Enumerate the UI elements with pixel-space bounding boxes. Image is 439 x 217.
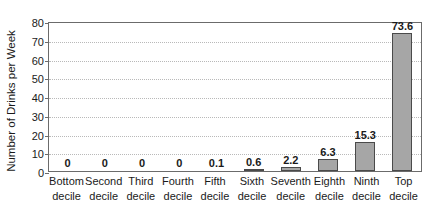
bar-value-label: 6.3 bbox=[320, 146, 335, 158]
y-tick-label: 40 bbox=[32, 93, 44, 104]
bar-slot: 6.3 bbox=[309, 23, 346, 171]
x-axis-category-label: Bottomdecile bbox=[48, 174, 85, 216]
x-label-line-2: decile bbox=[385, 189, 422, 204]
x-label-line-1: Eighth bbox=[311, 174, 348, 189]
bar-value-label: 2.2 bbox=[283, 154, 298, 166]
bar-slot: 2.2 bbox=[272, 23, 309, 171]
y-tick-label: 60 bbox=[32, 55, 44, 66]
bar[interactable]: 0.6 bbox=[244, 169, 264, 171]
x-label-line-2: decile bbox=[348, 189, 385, 204]
x-label-line-1: Ninth bbox=[348, 174, 385, 189]
y-tick-label: 80 bbox=[32, 18, 44, 29]
x-label-line-1: Sixth bbox=[234, 174, 271, 189]
y-tick-label: 50 bbox=[32, 74, 44, 85]
y-tick-label: 0 bbox=[38, 168, 44, 179]
x-axis-category-label: Sixthdecile bbox=[234, 174, 271, 216]
y-axis-title: Number of Drinks per Week bbox=[3, 6, 19, 196]
bar-slot: 0 bbox=[123, 23, 160, 171]
bar[interactable]: 6.3 bbox=[318, 159, 338, 171]
x-label-line-1: Bottom bbox=[48, 174, 85, 189]
x-label-line-2: decile bbox=[159, 189, 196, 204]
x-label-line-2: decile bbox=[122, 189, 159, 204]
plot-area: 01020304050607080 00000.10.62.26.315.373… bbox=[48, 22, 422, 172]
x-axis-category-label: Topdecile bbox=[385, 174, 422, 216]
bar-value-label: 0.1 bbox=[209, 157, 224, 169]
x-label-line-1: Top bbox=[385, 174, 422, 189]
bar-slot: 0.1 bbox=[198, 23, 235, 171]
x-label-line-2: decile bbox=[311, 189, 348, 204]
bar-slot: 0 bbox=[161, 23, 198, 171]
x-label-line-2: decile bbox=[48, 189, 85, 204]
bar-value-label: 0 bbox=[102, 157, 108, 169]
x-axis-category-label: Fourthdecile bbox=[159, 174, 196, 216]
x-axis-labels: BottomdecileSeconddecileThirddecileFourt… bbox=[48, 174, 422, 216]
bar-slot: 73.6 bbox=[384, 23, 421, 171]
y-tick-label: 30 bbox=[32, 111, 44, 122]
x-label-line-1: Fourth bbox=[159, 174, 196, 189]
bar-chart: Number of Drinks per Week 01020304050607… bbox=[0, 0, 439, 217]
bar[interactable]: 2.2 bbox=[281, 167, 301, 171]
bar-value-label: 73.6 bbox=[392, 20, 413, 32]
bar-value-label: 0 bbox=[176, 157, 182, 169]
bar-value-label: 15.3 bbox=[355, 129, 376, 141]
x-axis-category-label: Ninthdecile bbox=[348, 174, 385, 216]
y-tick-label: 70 bbox=[32, 36, 44, 47]
x-label-line-1: Seventh bbox=[271, 174, 311, 189]
bar[interactable]: 15.3 bbox=[355, 142, 375, 171]
x-axis-category-label: Eighthdecile bbox=[311, 174, 348, 216]
x-axis-category-label: Seventhdecile bbox=[271, 174, 311, 216]
bar-value-label: 0 bbox=[139, 157, 145, 169]
bar-value-label: 0.6 bbox=[246, 156, 261, 168]
x-label-line-2: decile bbox=[271, 189, 311, 204]
x-label-line-1: Third bbox=[122, 174, 159, 189]
x-label-line-2: decile bbox=[85, 189, 122, 204]
x-axis-category-label: Thirddecile bbox=[122, 174, 159, 216]
bar-slot: 0 bbox=[86, 23, 123, 171]
x-label-line-1: Fifth bbox=[196, 174, 233, 189]
x-axis-category-label: Fifthdecile bbox=[196, 174, 233, 216]
bar-series: 00000.10.62.26.315.373.6 bbox=[49, 23, 421, 171]
bar-slot: 0 bbox=[49, 23, 86, 171]
bar-slot: 0.6 bbox=[235, 23, 272, 171]
x-label-line-1: Second bbox=[85, 174, 122, 189]
bar-slot: 15.3 bbox=[347, 23, 384, 171]
x-label-line-2: decile bbox=[196, 189, 233, 204]
bar[interactable]: 73.6 bbox=[392, 33, 412, 171]
y-tick-label: 20 bbox=[32, 130, 44, 141]
x-axis-category-label: Seconddecile bbox=[85, 174, 122, 216]
y-tick-label: 10 bbox=[32, 149, 44, 160]
bar-value-label: 0 bbox=[65, 157, 71, 169]
x-label-line-2: decile bbox=[234, 189, 271, 204]
